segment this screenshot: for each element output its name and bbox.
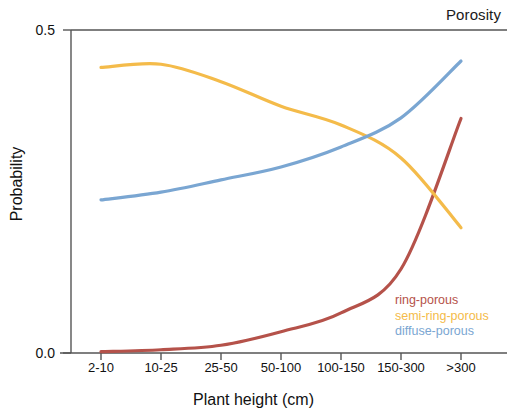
- x-tick-marks: [101, 353, 461, 360]
- legend-item-semi-ring-porous: semi-ring-porous: [395, 309, 489, 325]
- plot-canvas: [0, 0, 507, 418]
- legend-item-diffuse-porous: diffuse-porous: [395, 324, 489, 340]
- series-line-semi-ring-porous: [101, 64, 461, 228]
- chart-figure: Porosity Probability Plant height (cm) 0…: [0, 0, 507, 418]
- chart-legend: ring-porous semi-ring-porous diffuse-por…: [395, 293, 489, 340]
- series-line-diffuse-porous: [101, 61, 461, 200]
- legend-item-ring-porous: ring-porous: [395, 293, 489, 309]
